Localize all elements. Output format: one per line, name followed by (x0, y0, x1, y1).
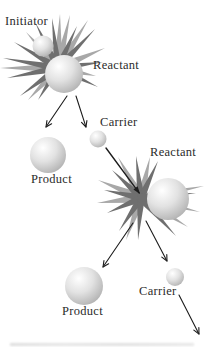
arrow-reactant1-to-product1 (47, 96, 67, 126)
reactant-sphere-2 (147, 178, 189, 220)
carrier-sphere-1 (90, 131, 107, 148)
arrow-reactant1-to-carrier1 (76, 96, 86, 126)
arrow-reactant2-to-carrier2 (146, 221, 166, 260)
arrow-reactant2-to-product2 (104, 223, 133, 266)
label-product-1: Product (31, 173, 72, 186)
label-reactant-2: Reactant (150, 146, 196, 159)
cropped-caption-remnant (10, 343, 194, 346)
label-carrier-1: Carrier (100, 116, 138, 129)
product-sphere-2 (65, 267, 103, 305)
product-sphere-1 (30, 137, 66, 173)
label-product-2: Product (62, 305, 103, 318)
label-initiator: Initiator (5, 15, 48, 28)
reactant-sphere-1 (45, 55, 83, 93)
label-carrier-2: Carrier (139, 285, 177, 298)
initiator-sphere (33, 36, 54, 57)
arrow-carrier2-continues-chain (179, 295, 198, 333)
chain-reaction-diagram: Initiator Reactant Carrier Product React… (0, 0, 212, 347)
arrow-reactant1-to-carrier1-head (86, 121, 87, 127)
label-reactant-1: Reactant (93, 59, 139, 72)
